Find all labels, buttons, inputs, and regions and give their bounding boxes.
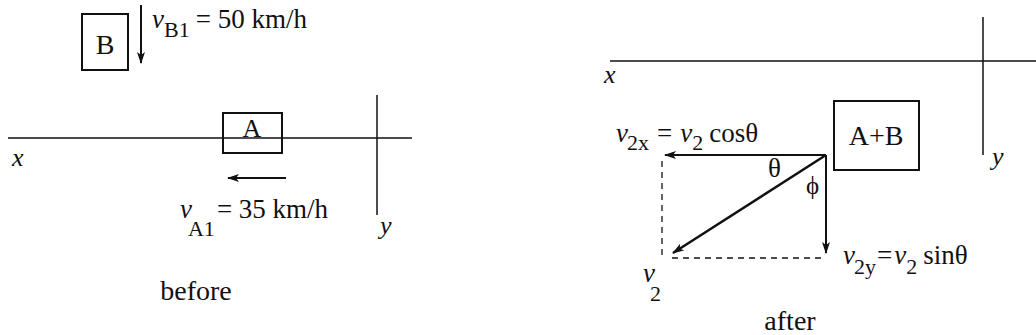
box-a-label: A <box>243 114 262 143</box>
box-b: B <box>82 14 128 70</box>
after-panel: x y A+B θ ϕ v2x=v2cosθ v2y=v2sinθ v2 <box>603 17 1036 335</box>
v2y-label: v2y=v2sinθ <box>843 240 968 279</box>
before-panel: B vB1= 50 km/h x y A vA1= 35 km/h before <box>8 4 412 306</box>
box-a: A <box>223 113 282 153</box>
v2x-label: v2x=v2cosθ <box>616 118 758 155</box>
theta-label: θ <box>768 153 781 183</box>
before-caption: before <box>160 275 232 306</box>
after-caption: after <box>764 305 816 335</box>
before-y-axis-label: y <box>377 211 392 240</box>
after-x-axis-label: x <box>603 60 616 89</box>
velocity-b-label: vB1= 50 km/h <box>152 4 307 42</box>
v2-arrow-icon <box>673 155 826 253</box>
phi-label: ϕ <box>806 172 819 199</box>
after-y-axis-label: y <box>989 142 1004 171</box>
before-x-axis-label: x <box>11 143 24 172</box>
box-ab-label: A+B <box>849 120 904 151</box>
box-ab: A+B <box>834 101 919 170</box>
v2-label: v2 <box>643 258 661 306</box>
velocity-a-label: vA1= 35 km/h <box>180 194 329 241</box>
collision-diagram: B vB1= 50 km/h x y A vA1= 35 km/h before… <box>0 0 1036 335</box>
box-b-label: B <box>96 29 115 60</box>
